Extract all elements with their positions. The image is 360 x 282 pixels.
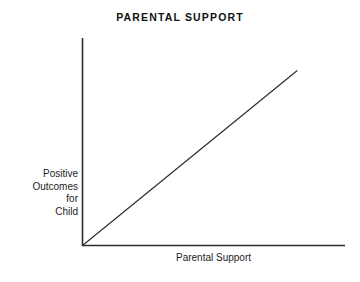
- y-axis-label-line-2: Outcomes: [8, 181, 78, 194]
- x-axis-label: Parental Support: [82, 251, 345, 264]
- y-axis-label: Positive Outcomes for Child: [8, 168, 78, 218]
- y-axis-label-line-1: Positive: [8, 168, 78, 181]
- chart-figure: PARENTAL SUPPORT Positive Outcomes for C…: [0, 0, 360, 282]
- y-axis-label-line-3: for: [8, 193, 78, 206]
- trend-line-series: [83, 71, 298, 246]
- plot-area: [0, 0, 360, 282]
- y-axis-label-line-4: Child: [8, 206, 78, 219]
